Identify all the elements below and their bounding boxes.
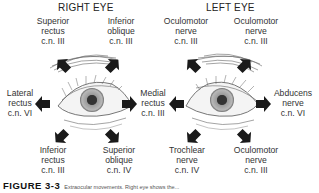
arrow-icon xyxy=(169,96,184,112)
arrow-icon xyxy=(102,126,124,148)
arrow-icon xyxy=(35,96,50,112)
arrow-icon xyxy=(234,126,256,148)
arrow-icon xyxy=(256,96,271,112)
figure-number: FIGURE 3-3 xyxy=(3,180,60,191)
caption-text: Extraocular movements. Right eye shows t… xyxy=(64,184,179,190)
arrow-icon xyxy=(182,54,204,76)
eyes-illustration xyxy=(0,0,319,193)
arrow-icon xyxy=(182,126,204,148)
figure-caption: FIGURE 3-3Extraocular movements. Right e… xyxy=(3,180,179,191)
arrow-icon xyxy=(50,126,72,148)
